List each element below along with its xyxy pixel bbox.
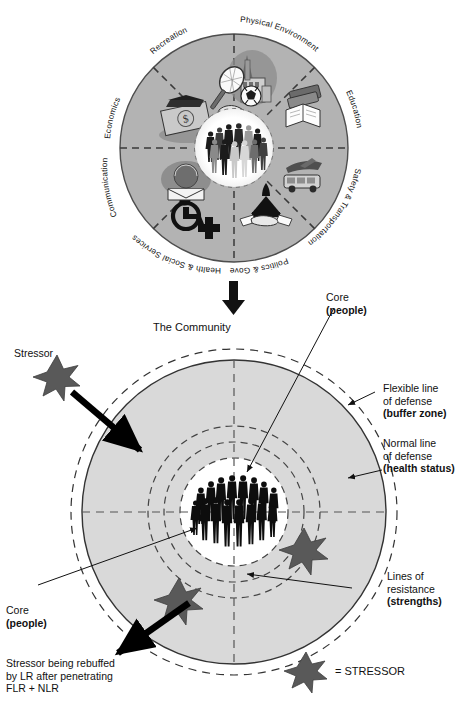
core-top-line2: (people) xyxy=(326,304,367,317)
rebuffed-line1: Stressor being rebuffed xyxy=(6,657,115,670)
normal-line3: (health status) xyxy=(383,462,455,475)
rebuffed-label: Stressor being rebuffed by LR after pene… xyxy=(6,657,115,695)
normal-line1: Normal line xyxy=(383,437,455,450)
rebuffed-line3: FLR + NLR xyxy=(6,682,115,695)
down-arrow-icon xyxy=(222,281,245,315)
lines-of-resistance-label: Lines of resistance (strengths) xyxy=(387,570,442,608)
normal-line2: of defense xyxy=(383,450,455,463)
flexible-line3: (buffer zone) xyxy=(383,407,447,420)
community-model xyxy=(33,308,397,693)
lor-line1: Lines of xyxy=(387,570,442,583)
normal-line-label: Normal line of defense (health status) xyxy=(383,437,455,475)
stressor-label: Stressor xyxy=(14,347,53,359)
lor-line3: (strengths) xyxy=(387,595,442,608)
core-top-label: Core (people) xyxy=(326,291,367,316)
figure-canvas: $ xyxy=(0,0,468,709)
flexible-line-label: Flexible line of defense (buffer zone) xyxy=(383,382,447,420)
core-bottom-line1: Core xyxy=(6,604,47,617)
lor-line2: resistance xyxy=(387,583,442,596)
core-bottom-label: Core (people) xyxy=(6,604,47,629)
core-bottom-line2: (people) xyxy=(6,617,47,630)
wheel-label-economics: Economics xyxy=(103,96,122,139)
community-title: The Community xyxy=(153,321,231,333)
flexible-line2: of defense xyxy=(383,395,447,408)
rebuffed-line2: by LR after penetrating xyxy=(6,670,115,683)
stressor-legend-label: = STRESSOR xyxy=(335,665,405,677)
wheel-label-communication: Communication xyxy=(100,157,119,219)
wheel-label-education: Education xyxy=(344,89,364,129)
community-wheel: $ xyxy=(0,0,364,275)
flexible-line1: Flexible line xyxy=(383,382,447,395)
stressor-star-legend xyxy=(284,652,327,693)
core-top-line1: Core xyxy=(326,291,367,304)
